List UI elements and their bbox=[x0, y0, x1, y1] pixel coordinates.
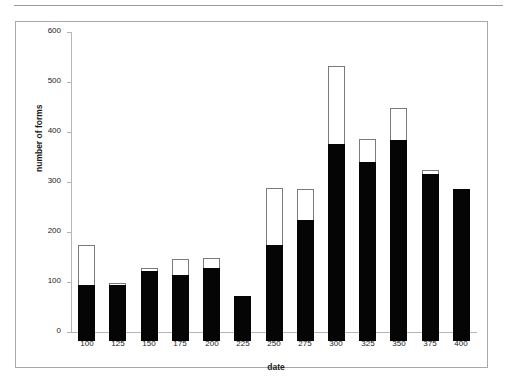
bar-segment-filled bbox=[390, 140, 407, 341]
y-axis-tick-label: 600 bbox=[48, 26, 61, 36]
page-root: number of forms 0100200300400500600 1001… bbox=[0, 0, 509, 385]
x-axis-title: date bbox=[71, 362, 481, 372]
bar-group[interactable] bbox=[328, 40, 345, 341]
bar-segment-filled bbox=[422, 174, 439, 341]
y-axis-tick-label: 100 bbox=[48, 276, 61, 286]
y-axis-tick-label: 500 bbox=[48, 76, 61, 86]
y-axis-title: number of forms bbox=[34, 104, 44, 172]
bar-group[interactable] bbox=[78, 40, 95, 341]
bar-segment-filled bbox=[234, 296, 251, 341]
y-axis-tick: 300 bbox=[67, 182, 72, 183]
plot-area: 0100200300400500600 10012515017520022525… bbox=[71, 31, 481, 341]
y-axis-tick: 600 bbox=[67, 32, 72, 33]
y-axis-tick: 200 bbox=[67, 232, 72, 233]
bar-group[interactable] bbox=[422, 40, 439, 341]
bar-segment-filled bbox=[172, 275, 189, 341]
y-axis-tick: 0 bbox=[67, 332, 72, 333]
bar-segment-filled bbox=[297, 220, 314, 341]
bar-segment-filled bbox=[359, 162, 376, 341]
bar-segment-filled bbox=[453, 189, 470, 342]
chart-frame: number of forms 0100200300400500600 1001… bbox=[15, 21, 488, 368]
bar-group[interactable] bbox=[141, 40, 158, 341]
bar-segment-filled bbox=[266, 245, 283, 342]
y-axis-tick: 100 bbox=[67, 282, 72, 283]
bar-segment-filled bbox=[109, 285, 126, 341]
bar-segment-filled bbox=[78, 285, 95, 342]
bar-group[interactable] bbox=[203, 40, 220, 341]
bar-group[interactable] bbox=[266, 40, 283, 341]
bar-group[interactable] bbox=[234, 40, 251, 341]
y-axis-tick-label: 0 bbox=[57, 326, 61, 336]
y-axis-tick: 500 bbox=[67, 82, 72, 83]
y-axis-tick-label: 400 bbox=[48, 126, 61, 136]
y-axis-tick-label: 300 bbox=[48, 176, 61, 186]
y-axis-tick-label: 200 bbox=[48, 226, 61, 236]
bar-group[interactable] bbox=[453, 40, 470, 341]
bar-group[interactable] bbox=[359, 40, 376, 341]
bar-segment-filled bbox=[203, 268, 220, 342]
top-horizontal-rule bbox=[14, 5, 503, 6]
bar-group[interactable] bbox=[390, 40, 407, 341]
bar-group[interactable] bbox=[109, 40, 126, 341]
bar-segment-filled bbox=[328, 144, 345, 341]
bar-segment-filled bbox=[141, 271, 158, 341]
y-axis-tick: 400 bbox=[67, 132, 72, 133]
bar-group[interactable] bbox=[297, 40, 314, 341]
bar-group[interactable] bbox=[172, 40, 189, 341]
